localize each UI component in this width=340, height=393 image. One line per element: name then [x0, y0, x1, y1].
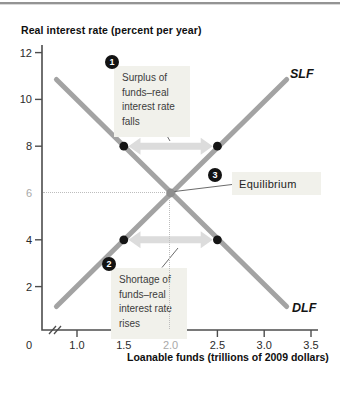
slf-curve-label: SLF — [290, 67, 314, 81]
gap-arrow — [128, 138, 212, 155]
quantity-dot — [213, 235, 222, 244]
y-tick-label: 4 — [26, 234, 32, 246]
equilibrium-dot — [166, 189, 175, 198]
y-tick-label: 2 — [26, 281, 32, 293]
shortage-text-line: Shortage of — [119, 273, 181, 288]
equilibrium-label: Equilibrium — [232, 172, 321, 195]
x-tick-label: 3.5 — [303, 339, 318, 351]
shortage-annotation: Shortage of funds–real interest rate ris… — [111, 268, 187, 339]
quantity-dot — [119, 142, 128, 151]
x-tick-label: 1.5 — [116, 339, 131, 351]
x-tick-label: 1.0 — [69, 339, 84, 351]
y-tick-label: 8 — [26, 140, 32, 152]
equilibrium-guide-vertical — [169, 198, 170, 329]
surplus-text-line: interest rate — [122, 100, 184, 115]
callout-badge-1: 1 — [105, 55, 119, 69]
x-tick-label: 2.5 — [210, 339, 225, 351]
dlf-curve-label: DLF — [292, 301, 317, 315]
x-axis-title: Loanable funds (trillions of 2009 dollar… — [127, 351, 329, 363]
equilibrium-guide-horizontal — [43, 192, 165, 193]
surplus-text-line: funds–real — [122, 86, 184, 101]
y-tick-label: 10 — [20, 93, 32, 105]
x-tick-label: 3.0 — [257, 339, 272, 351]
shortage-text-line: funds–real — [119, 288, 181, 303]
x-tick-label: 2.0 — [163, 339, 178, 351]
equilibrium-pointer-line — [175, 185, 233, 192]
shortage-text-line: rises — [119, 317, 181, 332]
loanable-funds-figure: Real interest rate (percent per year) 12… — [0, 0, 340, 393]
surplus-text-line: falls — [122, 115, 184, 130]
y-axis-title: Real interest rate (percent per year) — [21, 24, 202, 36]
quantity-dot — [213, 142, 222, 151]
y-tick-label: 12 — [20, 47, 32, 59]
surplus-text-line: Surplus of — [122, 71, 184, 86]
quantity-dot — [119, 235, 128, 244]
callout-badge-3: 3 — [208, 168, 222, 182]
gap-arrow — [128, 231, 212, 248]
shortage-text-line: interest rate — [119, 302, 181, 317]
shortage-pointer-line — [162, 248, 178, 268]
origin-label: 0 — [26, 339, 32, 351]
surplus-annotation: Surplus of funds–real interest rate fall… — [114, 66, 190, 137]
callout-badge-2: 2 — [102, 257, 116, 271]
y-tick-label: 6 — [26, 187, 32, 199]
